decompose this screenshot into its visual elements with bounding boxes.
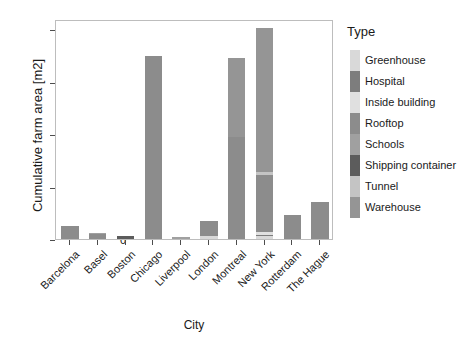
x-tick-mark xyxy=(180,240,181,245)
legend-swatch xyxy=(350,134,360,155)
bar-segment xyxy=(228,58,245,137)
bar-rotterdam[interactable] xyxy=(284,215,301,239)
bar-segment xyxy=(145,56,162,239)
legend-swatch xyxy=(350,113,360,134)
x-tick-mark xyxy=(97,240,98,245)
bar-segment xyxy=(311,202,328,239)
bar-chicago[interactable] xyxy=(145,56,162,239)
plot-panel xyxy=(55,20,333,240)
bar-segment xyxy=(200,236,217,239)
bar-segment xyxy=(200,221,217,235)
x-tick-mark xyxy=(319,240,320,245)
bar-segment xyxy=(256,236,273,239)
legend-item-label[interactable]: Tunnel xyxy=(365,176,456,197)
x-tick-mark xyxy=(152,240,153,245)
bar-segment xyxy=(61,226,78,239)
bar-segment xyxy=(284,215,301,239)
x-tick-mark xyxy=(264,240,265,245)
x-tick-mark xyxy=(236,240,237,245)
legend-item-list: GreenhouseHospitalInside buildingRooftop… xyxy=(365,50,456,218)
legend-swatch xyxy=(350,155,360,176)
legend-title: Type xyxy=(347,24,464,39)
legend-item-label[interactable]: Shipping container xyxy=(365,155,456,176)
bar-new-york[interactable] xyxy=(256,28,273,239)
x-tick-mark xyxy=(69,240,70,245)
x-tick-mark xyxy=(208,240,209,245)
bar-segment xyxy=(256,175,273,232)
x-tick-mark xyxy=(125,240,126,245)
bar-montreal[interactable] xyxy=(228,58,245,239)
legend-swatch xyxy=(350,92,360,113)
bar-basel[interactable] xyxy=(89,233,106,239)
legend-swatch xyxy=(350,71,360,92)
legend-swatch xyxy=(350,50,360,71)
bar-the-hague[interactable] xyxy=(311,202,328,239)
legend-swatch-strip xyxy=(350,50,360,218)
legend-item-label[interactable]: Inside building xyxy=(365,92,456,113)
legend-item-label[interactable]: Greenhouse xyxy=(365,50,456,71)
x-tick-mark xyxy=(291,240,292,245)
bar-segment xyxy=(89,234,106,239)
bar-london[interactable] xyxy=(200,221,217,239)
chart-root: Cumulative farm area [m2] 02000400060008… xyxy=(0,0,464,346)
bar-boston[interactable] xyxy=(117,236,134,239)
legend-item-label[interactable]: Rooftop xyxy=(365,113,456,134)
legend-swatch xyxy=(350,197,360,218)
x-axis-title: City xyxy=(55,318,333,332)
y-tick-mark xyxy=(50,240,55,241)
bar-segment xyxy=(117,236,134,239)
bar-group xyxy=(56,21,332,239)
legend-item-label[interactable]: Schools xyxy=(365,134,456,155)
legend-item-label[interactable]: Warehouse xyxy=(365,197,456,218)
legend-swatch xyxy=(350,176,360,197)
bar-liverpool[interactable] xyxy=(172,237,189,239)
bar-segment xyxy=(172,237,189,239)
legend: Type GreenhouseHospitalInside buildingRo… xyxy=(345,24,464,45)
y-axis-title: Cumulative farm area [m2] xyxy=(30,26,45,246)
legend-item-label[interactable]: Hospital xyxy=(365,71,456,92)
bar-segment xyxy=(228,137,245,239)
bar-segment xyxy=(256,28,273,172)
bar-barcelona[interactable] xyxy=(61,226,78,239)
